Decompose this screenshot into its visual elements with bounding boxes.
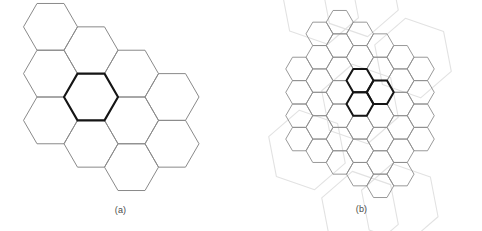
hex-cell: [145, 120, 199, 167]
hex-cell: [367, 127, 394, 150]
supercell-hex: [322, 171, 399, 231]
hex-cell: [24, 50, 78, 97]
hex-cell: [407, 57, 434, 80]
hex-cell: [326, 34, 353, 57]
hex-cell: [306, 69, 333, 92]
hex-cell: [347, 116, 374, 139]
hex-cell: [24, 97, 78, 144]
hex-cell: [407, 127, 434, 150]
hex-cell: [105, 50, 159, 97]
hex-cell: [326, 151, 353, 174]
hex-cell: [407, 81, 434, 104]
hex-cell: [387, 46, 414, 69]
panel-b: (b): [241, 0, 482, 231]
figure-root: (a) (b): [0, 0, 482, 231]
hex-cell: [306, 22, 333, 45]
hex-cell: [105, 144, 159, 191]
hex-cell: [286, 57, 313, 80]
caption-b: (b): [241, 204, 482, 214]
hex-cell: [286, 127, 313, 150]
hex-cell: [306, 139, 333, 162]
hex-cell: [24, 3, 78, 50]
hex-cell: [387, 139, 414, 162]
hex-cell: [286, 104, 313, 127]
caption-a: (a): [0, 205, 241, 215]
hex-cell: [145, 74, 199, 121]
hex-cell: [306, 92, 333, 115]
hex-cell: [387, 116, 414, 139]
hex-diagram-b: [241, 0, 482, 231]
hex-cell: [64, 27, 118, 74]
hex-cell: [286, 81, 313, 104]
panel-a: (a): [0, 0, 241, 231]
hex-cell-highlighted: [64, 74, 118, 121]
hex-cell: [367, 34, 394, 57]
hex-cell: [306, 46, 333, 69]
hex-cell: [105, 97, 159, 144]
hex-cell-highlighted: [367, 81, 394, 104]
hex-cell: [387, 162, 414, 185]
hex-cell: [64, 120, 118, 167]
fine-hex-grid: [286, 10, 435, 197]
hex-cell: [407, 104, 434, 127]
hex-diagram-a: [0, 0, 241, 231]
supercell-hex: [322, 0, 399, 37]
hex-cell: [367, 151, 394, 174]
